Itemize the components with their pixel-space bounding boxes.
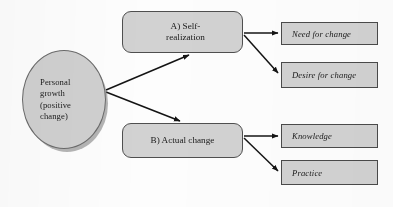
node-outcome-practice[interactable]: Practice <box>281 160 378 185</box>
arrow-stage-b-to-practice <box>244 138 278 171</box>
node-stage-b-label: B) Actual change <box>151 135 215 147</box>
node-outcome-practice-label: Practice <box>282 168 322 178</box>
arrow-stage-a-to-desire <box>244 35 278 73</box>
node-outcome-desire-for-change[interactable]: Desire for change <box>281 62 378 88</box>
arrow-source-to-stage-b <box>106 92 180 121</box>
node-stage-a-label: A) Self- realization <box>160 21 205 44</box>
node-stage-a-self-realization[interactable]: A) Self- realization <box>122 11 243 53</box>
node-outcome-knowledge-label: Knowledge <box>282 131 332 141</box>
node-outcome-need-for-change[interactable]: Need for change <box>281 22 378 45</box>
node-personal-growth-label: Personal growth (positive change) <box>23 77 71 123</box>
node-outcome-desire-label: Desire for change <box>282 70 356 80</box>
node-outcome-knowledge[interactable]: Knowledge <box>281 124 378 148</box>
diagram-canvas: Personal growth (positive change) A) Sel… <box>0 0 393 207</box>
node-personal-growth[interactable]: Personal growth (positive change) <box>22 50 106 149</box>
arrow-source-to-stage-a <box>106 55 189 90</box>
node-stage-b-actual-change[interactable]: B) Actual change <box>122 123 243 158</box>
node-outcome-need-label: Need for change <box>282 29 351 39</box>
